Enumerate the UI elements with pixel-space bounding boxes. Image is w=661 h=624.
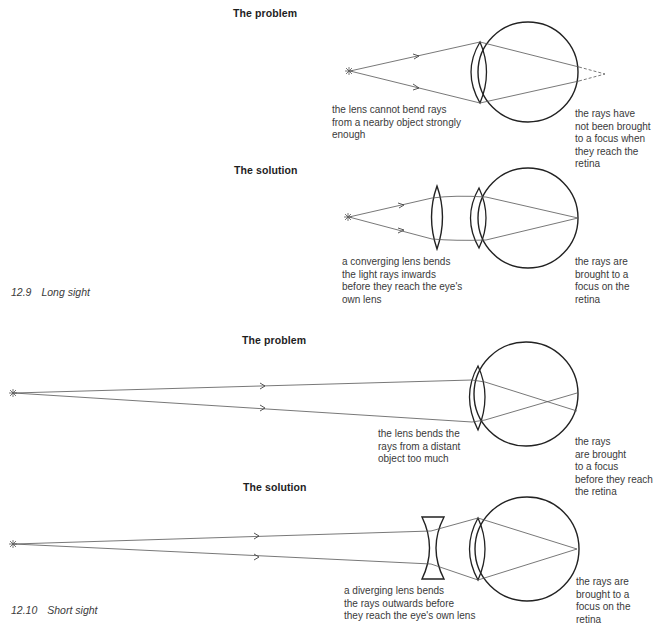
light-rays	[14, 380, 577, 422]
short-sight-solution-note-right: the rays are brought to a focus on the r…	[576, 576, 630, 624]
optics-diagram	[0, 0, 661, 624]
long-sight-problem-heading: The problem	[233, 7, 297, 19]
figure-caption-12-10: 12.10Short sight	[11, 604, 97, 616]
eyeball	[478, 168, 578, 268]
short-sight-solution-heading: The solution	[243, 481, 307, 493]
long-sight-solution-diagram	[344, 168, 578, 268]
long-sight-problem-note-left: the lens cannot bend rays from a nearby …	[332, 104, 461, 142]
figure-number: 12.9	[11, 286, 31, 298]
diverging-lens	[422, 517, 444, 579]
figure-caption-12-9: 12.9Long sight	[11, 286, 90, 298]
eyeball	[475, 497, 579, 601]
short-sight-solution-note-left: a diverging lens bends the rays outwards…	[344, 585, 475, 623]
ray-arrow-icon	[413, 54, 419, 90]
eye-lens	[471, 42, 487, 103]
short-sight-problem-note-left: the lens bends the rays from a distant o…	[378, 428, 460, 466]
eyeball	[478, 22, 578, 122]
eye-lens	[470, 518, 486, 580]
ray-arrow-icon	[398, 203, 404, 233]
short-sight-problem-heading: The problem	[242, 334, 306, 346]
long-sight-solution-note-right: the rays are brought to a focus on the r…	[575, 256, 629, 306]
long-sight-problem-note-right: the rays have not been brought to a focu…	[575, 108, 651, 171]
object-point-icon	[344, 213, 352, 221]
short-sight-problem-note-right: the rays are brought to a focus before t…	[575, 436, 653, 499]
figure-title: Long sight	[41, 286, 89, 298]
long-sight-solution-heading: The solution	[234, 164, 298, 176]
figure-number: 12.10	[11, 604, 37, 616]
figure-title: Short sight	[47, 604, 97, 616]
short-sight-solution-diagram	[9, 497, 579, 601]
short-sight-problem-diagram	[9, 342, 578, 446]
light-rays	[349, 196, 578, 240]
long-sight-solution-note-left: a converging lens bends the light rays i…	[342, 256, 462, 306]
ray-arrow-icon	[260, 383, 265, 411]
light-rays	[14, 518, 577, 580]
eyeball	[474, 342, 578, 446]
